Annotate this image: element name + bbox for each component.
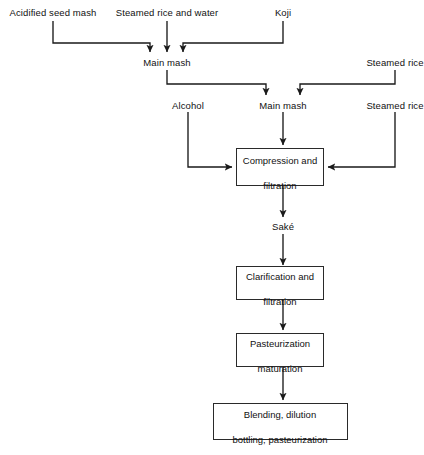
compression-line1: Compression and: [243, 155, 317, 166]
label-acidified-seed-mash: Acidified seed mash: [10, 7, 97, 18]
label-sake: Saké: [272, 221, 294, 232]
process-box-compression-label: Compression and filtration: [243, 142, 317, 192]
clarification-line2: filtration: [263, 296, 296, 307]
label-main-mash-1: Main mash: [143, 57, 190, 68]
label-koji: Koji: [275, 7, 291, 18]
blending-line1: Blending, dilution: [244, 409, 316, 420]
edge-steamedrice-to-compression: [328, 112, 395, 167]
label-steamed-rice-lower: Steamed rice: [366, 100, 423, 111]
blending-line2: bottling, pasteurization: [232, 434, 327, 445]
label-steamed-rice-upper: Steamed rice: [366, 57, 423, 68]
label-steamed-rice-and-water: Steamed rice and water: [116, 7, 219, 18]
label-alcohol: Alcohol: [172, 100, 204, 111]
edge-alcohol-to-compression: [188, 112, 232, 167]
pasteurization-line1: Pasteurization: [250, 338, 310, 349]
compression-line2: filtration: [263, 180, 296, 191]
label-main-mash-2: Main mash: [259, 100, 306, 111]
pasteurization-line2: maturation: [258, 363, 303, 374]
process-box-pasteurization-label: Pasteurization maturation: [250, 325, 310, 375]
edge-acidified-to-mainmash1: [53, 21, 150, 52]
process-box-blending-label: Blending, dilution bottling, pasteurizat…: [232, 396, 327, 446]
clarification-line1: Clarification and: [246, 271, 314, 282]
edge-koji-to-mainmash1: [183, 21, 283, 52]
process-box-clarification-label: Clarification and filtration: [246, 258, 314, 308]
edge-mainmash1-to-mainmash2: [167, 70, 266, 95]
edge-steamedrice-to-mainmash2: [300, 70, 395, 95]
